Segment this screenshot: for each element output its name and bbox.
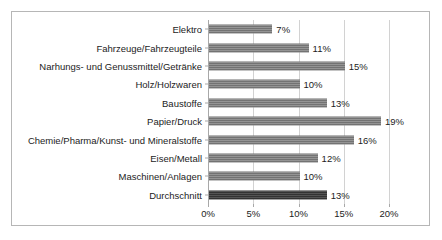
bar [209,153,318,162]
bar-row: Chemie/Pharma/Kunst- und Mineralstoffe16… [208,130,389,148]
x-axis-tick-label: 15% [334,208,353,219]
category-tick [205,84,208,85]
bar-value-label: 13% [331,97,350,108]
x-axis-tick-label: 5% [246,208,260,219]
x-axis-tick [344,204,345,207]
x-axis: 0%5%10%15%20% [208,204,389,224]
category-tick [205,47,208,48]
bar [209,43,309,52]
bar-row: Maschinen/Anlagen10% [208,167,389,185]
x-axis-tick [253,204,254,207]
category-label: Eisen/Metall [150,152,202,163]
category-label: Narhungs- und Genussmittel/Getränke [39,60,202,71]
bar [209,61,345,70]
category-label: Maschinen/Anlagen [119,171,202,182]
chart-frame: Elektro7%Fahrzeuge/Fahrzeugteile11%Narhu… [11,11,430,226]
category-label: Baustoffe [162,97,202,108]
x-axis-tick-label: 20% [379,208,398,219]
category-tick [205,65,208,66]
bar [209,80,300,89]
bar-row: Durchschnitt13% [208,186,389,204]
category-tick [205,102,208,103]
category-label: Fahrzeuge/Fahrzeugteile [96,42,202,53]
category-label: Elektro [172,24,202,35]
category-label: Durchschnitt [149,189,202,200]
category-label: Papier/Druck [147,116,202,127]
bar-row: Holz/Holzwaren10% [208,75,389,93]
bar [209,135,354,144]
x-axis-tick [299,204,300,207]
category-tick [205,29,208,30]
bar-value-label: 10% [304,171,323,182]
plot-area: Elektro7%Fahrzeuge/Fahrzeugteile11%Narhu… [208,20,389,204]
bar-value-label: 19% [385,116,404,127]
bar-value-label: 12% [322,152,341,163]
bar-rows: Elektro7%Fahrzeuge/Fahrzeugteile11%Narhu… [208,20,389,204]
bar-value-label: 10% [304,79,323,90]
gridline [389,20,390,204]
bar-row: Elektro7% [208,20,389,38]
bar-value-label: 16% [358,134,377,145]
bar-value-label: 7% [276,24,290,35]
bar-row: Baustoffe13% [208,94,389,112]
category-tick [205,194,208,195]
category-tick [205,121,208,122]
bar-row: Fahrzeuge/Fahrzeugteile11% [208,38,389,56]
x-axis-tick-label: 0% [201,208,215,219]
category-tick [205,157,208,158]
category-label: Holz/Holzwaren [135,79,202,90]
bar-value-label: 11% [313,42,331,53]
bar-value-label: 13% [331,189,350,200]
bar-row: Papier/Druck19% [208,112,389,130]
category-tick [205,139,208,140]
bar-row: Eisen/Metall12% [208,149,389,167]
bar [209,98,327,107]
x-axis-tick [208,204,209,207]
bar-row: Narhungs- und Genussmittel/Getränke15% [208,57,389,75]
bar [209,117,381,126]
category-label: Chemie/Pharma/Kunst- und Mineralstoffe [28,134,202,145]
x-axis-tick-label: 10% [289,208,308,219]
x-axis-tick [389,204,390,207]
bar-value-label: 15% [349,60,368,71]
bar [209,190,327,199]
bar [209,172,300,181]
category-tick [205,176,208,177]
bar [209,25,272,34]
